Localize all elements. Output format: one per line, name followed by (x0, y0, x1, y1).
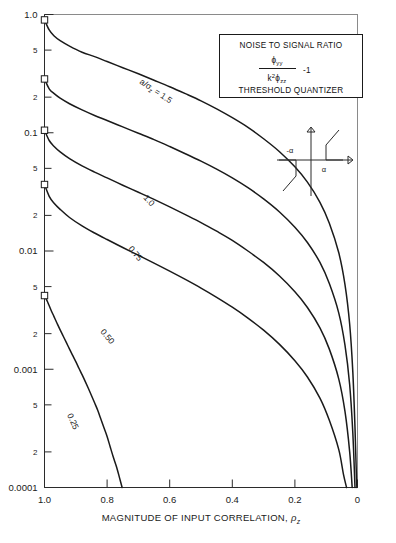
y-tick-label-minor: 2 (33, 330, 38, 339)
y-axis-labels: 1.00.10.010.0010.000152525252 (8, 9, 38, 493)
start-marker-0 (41, 17, 47, 23)
y-tick-label-minor: 2 (33, 448, 38, 457)
x-tick-label: 0.4 (226, 494, 239, 505)
curve-label-group: a/σz = 1.5 1.0 0.75 0.50 0.25 (65, 76, 174, 431)
curve-3 (45, 185, 347, 488)
y-tick-label: 0.1 (24, 127, 37, 138)
figure-root: 1.00.10.010.0010.000152525252 1.00.80.60… (0, 0, 396, 543)
y-tick-label: 0.0001 (8, 482, 37, 493)
y-tick-label: 0.01 (19, 245, 38, 256)
noise-to-signal-ratio-chart: 1.00.10.010.0010.000152525252 1.00.80.60… (0, 0, 396, 543)
x-axis-ticks (45, 480, 358, 488)
curve-label-0-25: 0.25 (65, 412, 81, 431)
start-marker-2 (41, 127, 47, 133)
start-marker-3 (41, 181, 47, 187)
title-box: NOISE TO SIGNAL RATIO ϕyy k2ϕzz -1 THRES… (220, 35, 363, 98)
y-tick-label-minor: 5 (33, 283, 38, 292)
y-tick-label-minor: 2 (33, 211, 38, 220)
curve-label-0-75: 0.75 (126, 244, 144, 263)
title-box-line1: NOISE TO SIGNAL RATIO (240, 41, 343, 50)
x-tick-label: 0 (355, 494, 360, 505)
x-tick-label: 0.8 (100, 494, 113, 505)
curve-1 (45, 79, 356, 488)
title-box-line4: THRESHOLD QUANTIZER (239, 86, 344, 95)
inset-positive-branch (326, 130, 343, 160)
y-tick-label: 1.0 (24, 9, 37, 20)
y-tick-label-minor: 5 (33, 401, 38, 410)
x-axis-title: MAGNITUDE OF INPUT CORRELATION, ρz (102, 512, 301, 525)
start-marker-4 (41, 292, 47, 298)
x-tick-label: 0.2 (288, 494, 301, 505)
curve-label-0-50: 0.50 (98, 327, 116, 346)
y-tick-label: 0.001 (14, 364, 38, 375)
inset-label-negative-alpha: -α (287, 146, 294, 155)
curve-4 (45, 296, 123, 488)
y-tick-label-minor: 2 (33, 93, 38, 102)
y-tick-label-minor: 5 (33, 46, 38, 55)
y-tick-label-minor: 5 (33, 164, 38, 173)
x-tick-label: 0.6 (163, 494, 176, 505)
y-axis-ticks (45, 15, 54, 488)
inset-label-positive-alpha: α (322, 165, 327, 174)
x-tick-label: 1.0 (38, 494, 51, 505)
x-axis-labels: 1.00.80.60.40.20 (38, 494, 360, 505)
threshold-quantizer-inset: -α α (277, 127, 353, 196)
formula-minus-one: -1 (303, 66, 311, 75)
curve-2 (45, 130, 353, 487)
start-marker-1 (41, 76, 47, 82)
